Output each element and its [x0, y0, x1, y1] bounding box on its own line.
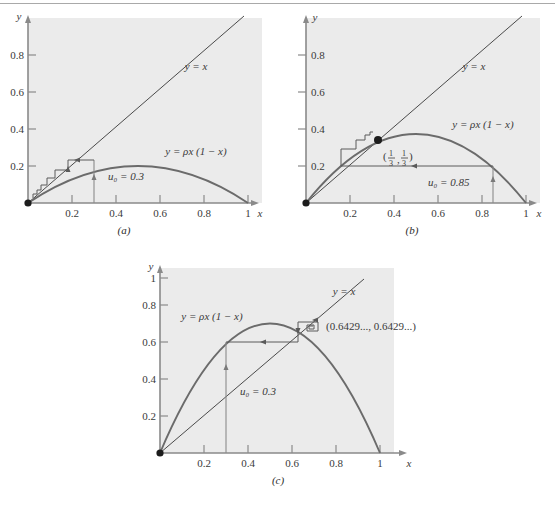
x-tick-label-3: 0.8 — [329, 457, 343, 469]
y-tick-label-2: 0.6 — [311, 86, 325, 98]
y-tick-label-1: 0.4 — [142, 373, 156, 385]
y-axis-name: y — [148, 260, 154, 272]
y-tick-label-3: 0.8 — [10, 49, 24, 61]
logistic-curve-label: y = ρx (1 − x) — [180, 310, 243, 323]
u0-label: u₀ = 0.3 — [108, 170, 144, 182]
fixed-point-y-denominator: 3 — [402, 159, 406, 168]
x-tick-label-0: 0.2 — [197, 457, 211, 469]
x-tick-label-1: 0.4 — [109, 207, 123, 219]
x-tick-label-4: 1 — [377, 457, 383, 469]
x-tick-label-1: 0.4 — [241, 457, 255, 469]
origin-fixed-point-dot — [302, 199, 309, 206]
x-axis-arrow — [399, 450, 407, 456]
x-tick-label-3: 0.8 — [197, 207, 211, 219]
figure-root: 0.2 0.4 0.6 0.8 0.2 0.4 0.6 0.8 1 y x — [0, 0, 555, 505]
origin-fixed-point-dot — [24, 199, 31, 206]
svg-text:,: , — [397, 153, 400, 165]
x-tick-label-1: 0.4 — [387, 207, 401, 219]
fixed-point-y-numerator: 1 — [402, 149, 406, 158]
y-tick-label-3: 0.8 — [311, 49, 325, 61]
panel-a: 0.2 0.4 0.6 0.8 0.2 0.4 0.6 0.8 1 y x — [0, 8, 270, 223]
x-tick-label-2: 0.6 — [431, 207, 445, 219]
y-tick-label-0: 0.2 — [10, 160, 24, 172]
plot-area-background — [160, 268, 394, 453]
logistic-curve-label: y = ρx (1 − x) — [451, 118, 514, 131]
y-tick-label-3: 0.8 — [142, 299, 156, 311]
x-axis-name: x — [257, 207, 263, 219]
u0-label: u₀ = 0.85 — [428, 176, 470, 188]
x-tick-label-2: 0.6 — [285, 457, 299, 469]
u0-label: u₀ = 0.3 — [240, 385, 276, 397]
identity-line-label: y = x — [332, 285, 356, 297]
y-tick-label-2: 0.6 — [142, 336, 156, 348]
plot-area-background — [306, 18, 540, 203]
panel-b-caption: (b) — [392, 224, 432, 236]
x-tick-label-0: 0.2 — [343, 207, 357, 219]
x-axis-name: x — [406, 457, 412, 469]
fixed-point-x-denominator: 3 — [389, 159, 393, 168]
y-axis-name: y — [312, 11, 318, 23]
identity-line-label: y = x — [462, 60, 486, 72]
svg-text:(: ( — [383, 150, 387, 163]
panel-c-caption: (c) — [258, 474, 298, 486]
y-tick-label-1: 0.4 — [311, 123, 325, 135]
svg-text:): ) — [409, 150, 413, 163]
y-tick-label-0: 0.2 — [311, 160, 325, 172]
identity-line-label: y = x — [184, 60, 208, 72]
panel-b: 0.2 0.4 0.6 0.8 0.2 0.4 0.6 0.8 1 y x — [278, 8, 553, 223]
x-tick-label-3: 0.8 — [475, 207, 489, 219]
y-tick-label-4: 1 — [151, 272, 157, 284]
x-tick-label-4: 1 — [245, 207, 251, 219]
panel-c: 0.2 0.4 0.6 0.8 1 0.2 0.4 0.6 0.8 1 y x — [132, 258, 432, 473]
y-axis-name: y — [16, 10, 22, 22]
top-divider-rule — [0, 3, 555, 4]
x-tick-label-0: 0.2 — [65, 207, 79, 219]
panel-a-plot: 0.2 0.4 0.6 0.8 0.2 0.4 0.6 0.8 1 y x — [0, 8, 270, 223]
y-tick-label-1: 0.4 — [10, 123, 24, 135]
fixed-point-x-numerator: 1 — [389, 149, 393, 158]
y-ticks — [298, 55, 306, 166]
x-tick-label-2: 0.6 — [153, 207, 167, 219]
x-tick-label-4: 1 — [523, 207, 529, 219]
y-tick-label-0: 0.2 — [142, 410, 156, 422]
x-axis-name: x — [536, 207, 542, 219]
logistic-curve-label: y = ρx (1 − x) — [164, 145, 227, 158]
nonzero-fixed-point-dot — [374, 136, 382, 144]
panel-c-plot: 0.2 0.4 0.6 0.8 1 0.2 0.4 0.6 0.8 1 y x — [132, 258, 432, 473]
plot-area-background — [28, 18, 262, 203]
panel-b-plot: 0.2 0.4 0.6 0.8 0.2 0.4 0.6 0.8 1 y x — [278, 8, 553, 223]
origin-fixed-point-dot — [156, 449, 163, 456]
panel-a-caption: (a) — [104, 224, 144, 236]
y-tick-label-2: 0.6 — [10, 86, 24, 98]
fixed-point-coordinate-label: (0.6429..., 0.6429...) — [326, 320, 416, 333]
